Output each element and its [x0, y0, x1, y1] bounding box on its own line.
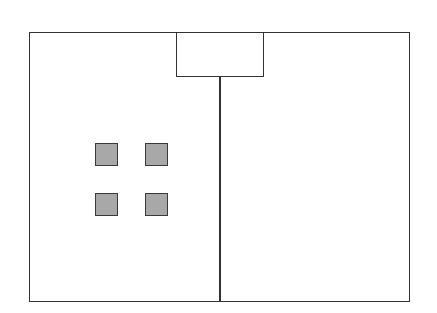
top-center-box	[176, 32, 264, 77]
square-top-left	[95, 143, 118, 166]
square-top-right	[145, 143, 168, 166]
square-bottom-left	[95, 193, 118, 216]
vertical-divider	[219, 76, 221, 302]
square-bottom-right	[145, 193, 168, 216]
